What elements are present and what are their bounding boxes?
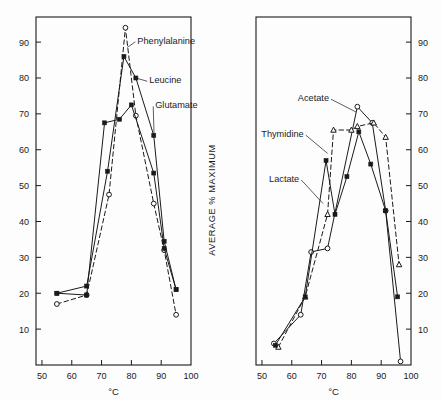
y-tick-label: 40 [418, 217, 428, 227]
annotation-leader [127, 42, 135, 48]
y-tick-label: 70 [418, 109, 428, 119]
data-point [383, 134, 388, 139]
y-tick-label: 50 [418, 181, 428, 191]
annotation-label-leucine: Leucine [149, 75, 181, 85]
data-point [325, 246, 330, 251]
figure-root: 5060708090100°C1020304050607080905060708… [0, 0, 442, 400]
annotation-leader [331, 99, 356, 112]
data-point [309, 250, 314, 255]
data-point [152, 133, 156, 137]
y-tick-label: 10 [19, 325, 29, 335]
annotation-leader [153, 106, 154, 133]
x-tick-label: 90 [376, 371, 386, 381]
data-point [333, 212, 337, 216]
y-tick-label: 60 [19, 145, 29, 155]
y-tick-label: 60 [418, 145, 428, 155]
y-tick-label: 90 [19, 38, 29, 48]
data-point [55, 291, 59, 295]
y-axis-title: AVERAGE % MAXIMUM [207, 144, 217, 256]
series-line-phenylalanine [57, 28, 176, 315]
data-point [103, 121, 107, 125]
data-point [298, 312, 303, 317]
data-point [396, 262, 401, 267]
plot-frame-left [36, 17, 191, 365]
x-tick-label: 50 [37, 371, 47, 381]
data-point [85, 293, 89, 297]
data-point [273, 343, 277, 347]
annotation-leader [301, 180, 323, 204]
y-tick-label: 40 [19, 217, 29, 227]
data-point [174, 312, 179, 317]
x-tick-label: 90 [156, 371, 166, 381]
data-point [174, 288, 178, 292]
x-tick-label: 100 [403, 371, 418, 381]
x-axis-title-right: °C [328, 386, 339, 397]
x-tick-label: 70 [97, 371, 107, 381]
series-line-acetate [274, 107, 401, 362]
x-tick-label: 60 [67, 371, 77, 381]
y-tick-label: 90 [418, 38, 428, 48]
data-point [355, 104, 360, 109]
annotation-label-glutamate: Glutamate [155, 100, 197, 110]
plot-frame-right [256, 17, 411, 365]
data-point [151, 201, 156, 206]
data-point [117, 117, 121, 121]
series-line-leucine [57, 56, 176, 293]
data-point [303, 295, 307, 299]
y-tick-label: 30 [19, 253, 29, 263]
data-point [357, 130, 361, 134]
data-point [106, 169, 110, 173]
data-point [345, 175, 349, 179]
data-point [107, 192, 112, 197]
annotation-label-acetate: Acetate [298, 93, 329, 103]
annotation-label-lactate: Lactate [269, 174, 299, 184]
data-point [152, 171, 156, 175]
data-point [398, 359, 403, 364]
x-tick-label: 60 [287, 371, 297, 381]
data-point [162, 246, 166, 250]
y-tick-label: 80 [19, 73, 29, 83]
data-point [325, 211, 330, 216]
series-line-thymidine [278, 123, 399, 347]
y-tick-label: 50 [19, 181, 29, 191]
annotation-label-thymidine: Thymidine [261, 129, 303, 139]
y-tick-label: 10 [418, 325, 428, 335]
data-point [324, 159, 328, 163]
y-tick-label: 20 [19, 289, 29, 299]
annotation-label-phenylalanine: Phenylalanine [137, 36, 195, 46]
annotation-leader [306, 135, 328, 153]
y-tick-label: 30 [418, 253, 428, 263]
x-tick-label: 80 [346, 371, 356, 381]
y-tick-label: 80 [418, 73, 428, 83]
data-point [396, 295, 400, 299]
y-tick-label: 70 [19, 109, 29, 119]
data-point [384, 209, 388, 213]
figure-canvas: 5060708090100°C1020304050607080905060708… [0, 0, 442, 400]
data-point [369, 162, 373, 166]
x-tick-label: 70 [317, 371, 327, 381]
series-line-lactate [275, 132, 397, 345]
data-point [123, 25, 128, 30]
x-tick-label: 100 [183, 371, 198, 381]
x-tick-label: 80 [126, 371, 136, 381]
series-line-glutamate [57, 105, 176, 295]
data-point [331, 127, 336, 132]
x-axis-title-left: °C [108, 386, 119, 397]
x-tick-label: 50 [257, 371, 267, 381]
data-point [129, 103, 133, 107]
data-point [54, 302, 59, 307]
y-tick-label: 20 [418, 289, 428, 299]
data-point [122, 54, 126, 58]
data-point [355, 124, 360, 129]
